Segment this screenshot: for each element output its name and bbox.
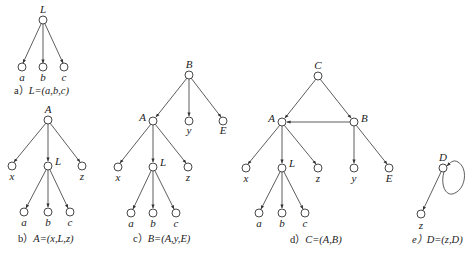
panel-e: D z e）D=(z,D) bbox=[412, 151, 464, 246]
label-c: c bbox=[62, 71, 67, 83]
label-a: a bbox=[256, 217, 262, 229]
label-x: x bbox=[9, 170, 15, 182]
label-A: A bbox=[138, 111, 146, 123]
node-A bbox=[44, 116, 52, 124]
node-C bbox=[314, 72, 322, 80]
node-a bbox=[127, 209, 135, 217]
node-a bbox=[255, 209, 263, 217]
node-A bbox=[149, 117, 157, 125]
label-B: B bbox=[186, 58, 193, 70]
node-z bbox=[314, 164, 322, 172]
label-b: b bbox=[279, 217, 285, 229]
label-y: y bbox=[351, 172, 357, 184]
node-L bbox=[149, 163, 157, 171]
label-E: E bbox=[219, 124, 227, 136]
label-B: B bbox=[361, 112, 368, 124]
node-D bbox=[439, 164, 447, 172]
label-A: A bbox=[267, 112, 275, 124]
node-E bbox=[385, 164, 393, 172]
label-E: E bbox=[385, 172, 393, 184]
node-b bbox=[39, 63, 47, 71]
node-a bbox=[20, 208, 28, 216]
caption-e: e）D=(z,D) bbox=[412, 234, 463, 246]
label-L: L bbox=[288, 157, 295, 169]
node-y bbox=[350, 164, 358, 172]
label-L: L bbox=[39, 3, 46, 15]
caption-c: c）B=(A,y,E) bbox=[133, 233, 191, 245]
node-A bbox=[278, 118, 286, 126]
node-b bbox=[278, 209, 286, 217]
node-z bbox=[184, 163, 192, 171]
panel-a: L a b c a）L=(a,b,c) bbox=[14, 3, 70, 97]
label-a: a bbox=[21, 216, 27, 228]
label-a: a bbox=[19, 71, 25, 83]
label-z: z bbox=[418, 219, 424, 231]
panel-b: A x L z a b c b）A=(x,L,z) bbox=[8, 103, 86, 245]
caption-d: d）C=(A,B) bbox=[290, 234, 342, 246]
node-L bbox=[44, 162, 52, 170]
label-L: L bbox=[159, 156, 166, 168]
node-c bbox=[172, 209, 180, 217]
label-c: c bbox=[174, 217, 179, 229]
label-C: C bbox=[314, 59, 322, 71]
label-x: x bbox=[115, 171, 121, 183]
node-b bbox=[44, 208, 52, 216]
node-z bbox=[78, 162, 86, 170]
panel-d: C A B x L z y E a b c d）C=(A,B) bbox=[242, 59, 393, 246]
label-c: c bbox=[68, 216, 73, 228]
node-a bbox=[18, 63, 26, 71]
label-b: b bbox=[45, 216, 51, 228]
label-D: D bbox=[438, 151, 447, 163]
label-a: a bbox=[128, 217, 134, 229]
node-x bbox=[242, 164, 250, 172]
node-b bbox=[149, 209, 157, 217]
node-B bbox=[185, 71, 193, 79]
node-c bbox=[301, 209, 309, 217]
label-L: L bbox=[54, 155, 61, 167]
label-x: x bbox=[243, 172, 249, 184]
panel-c: B A y E x L z a b c c）B=(A,y,E) bbox=[114, 58, 227, 245]
node-B bbox=[350, 118, 358, 126]
node-z bbox=[417, 210, 425, 218]
label-A: A bbox=[44, 103, 52, 115]
label-b: b bbox=[40, 71, 46, 83]
node-L bbox=[278, 164, 286, 172]
generalized-list-diagram: L a b c a）L=(a,b,c) A x L z a b c b）A=(x… bbox=[0, 0, 472, 253]
label-z: z bbox=[315, 172, 321, 184]
node-c bbox=[60, 63, 68, 71]
caption-b: b）A=(x,L,z) bbox=[18, 233, 74, 245]
node-x bbox=[8, 162, 16, 170]
caption-a: a）L=(a,b,c) bbox=[14, 85, 70, 97]
node-L bbox=[39, 16, 47, 24]
node-c bbox=[66, 208, 74, 216]
label-b: b bbox=[150, 217, 156, 229]
label-c: c bbox=[303, 217, 308, 229]
label-y: y bbox=[186, 124, 192, 136]
node-x bbox=[114, 163, 122, 171]
label-z: z bbox=[79, 170, 85, 182]
label-z: z bbox=[185, 171, 191, 183]
